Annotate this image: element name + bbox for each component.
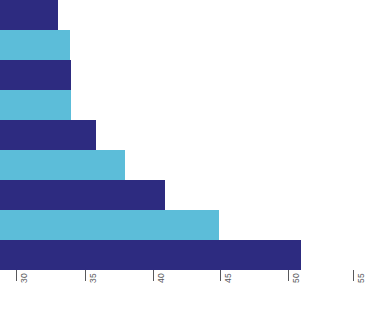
bar xyxy=(0,90,71,120)
bar-chart: 303540455055 xyxy=(0,0,370,318)
x-axis-title xyxy=(0,305,370,318)
bar xyxy=(0,120,96,150)
x-axis-tick-label: 30 xyxy=(20,273,29,283)
x-axis-tick-label: 50 xyxy=(292,273,301,283)
bar xyxy=(0,210,219,240)
x-axis-tick-mark xyxy=(353,270,354,281)
x-axis-tick-mark xyxy=(153,270,154,281)
plot-area xyxy=(0,0,370,270)
x-axis-tick-label: 55 xyxy=(357,273,366,283)
bar xyxy=(0,180,165,210)
x-axis-tick-label: 45 xyxy=(224,273,233,283)
x-axis-tick-mark xyxy=(85,270,86,281)
bar xyxy=(0,150,125,180)
x-axis-tick-label: 40 xyxy=(157,273,166,283)
bar xyxy=(0,60,71,90)
x-axis-tick-label: 35 xyxy=(89,273,98,283)
bar xyxy=(0,30,70,60)
x-axis-tick-mark xyxy=(288,270,289,281)
x-axis-tick-mark xyxy=(220,270,221,281)
bar xyxy=(0,0,58,30)
bar xyxy=(0,240,301,270)
x-axis-tick-mark xyxy=(16,270,17,281)
